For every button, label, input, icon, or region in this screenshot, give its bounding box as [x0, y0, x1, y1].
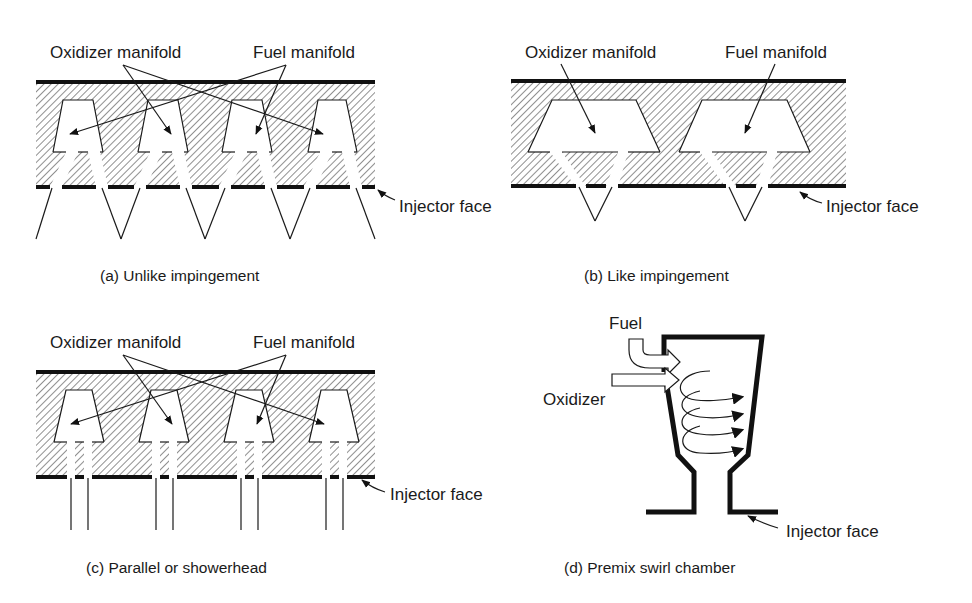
chamber-wall-left — [646, 380, 694, 512]
panel-b-like-impingement: Oxidizer manifold Fuel manifold Injector… — [511, 43, 919, 284]
oxidizer-inlet-arrow — [612, 368, 679, 392]
panel-caption: (b) Like impingement — [584, 267, 729, 284]
injector-face-label: Injector face — [390, 485, 483, 504]
panel-d-premix-swirl-chamber: Fuel Oxidizer Injector face (d) Premix s… — [543, 314, 879, 576]
fuel-inlet-arrow — [629, 339, 680, 374]
injector-types-diagram: Oxidizer manifold Fuel manifold Injector… — [0, 0, 972, 603]
fuel-label: Fuel — [609, 314, 642, 333]
panel-caption: (c) Parallel or showerhead — [86, 559, 267, 576]
fuel-manifold-label: Fuel manifold — [253, 43, 355, 62]
fuel-manifold-label: Fuel manifold — [725, 43, 827, 62]
oxidizer-manifold-label: Oxidizer manifold — [525, 43, 656, 62]
panel-a-unlike-impingement: Oxidizer manifold Fuel manifold Injector… — [36, 43, 492, 284]
panel-caption: (d) Premix swirl chamber — [564, 559, 735, 576]
spray-jets — [36, 188, 375, 239]
chamber-wall-right — [664, 337, 778, 512]
oxidizer-manifold-label: Oxidizer manifold — [50, 43, 181, 62]
panel-c-parallel-showerhead: Oxidizer manifold Fuel manifold Injector… — [36, 333, 483, 576]
injector-face-label: Injector face — [399, 197, 492, 216]
injector-face-leader — [748, 516, 778, 528]
injector-face-label: Injector face — [786, 522, 879, 541]
parallel-jets — [71, 478, 343, 530]
panel-caption: (a) Unlike impingement — [100, 267, 260, 284]
fuel-manifold-label: Fuel manifold — [253, 333, 355, 352]
swirl-flow — [680, 371, 742, 453]
injector-face-label: Injector face — [826, 197, 919, 216]
oxidizer-label: Oxidizer — [543, 390, 606, 409]
spray-jets — [579, 187, 762, 221]
oxidizer-manifold-label: Oxidizer manifold — [50, 333, 181, 352]
